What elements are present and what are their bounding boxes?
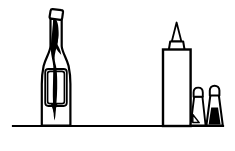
squeeze-bottle-body bbox=[163, 50, 191, 127]
pepper-shaker bbox=[206, 86, 222, 126]
pepper-shaker-cap bbox=[210, 86, 220, 96]
bottle-cap bbox=[50, 9, 63, 20]
drawing-canvas: Condiment bottles line drawing Black and… bbox=[0, 0, 235, 151]
background bbox=[0, 0, 235, 151]
salt-shaker-cap bbox=[194, 88, 203, 97]
salt-shaker bbox=[191, 88, 206, 126]
condiments-illustration bbox=[0, 0, 235, 151]
